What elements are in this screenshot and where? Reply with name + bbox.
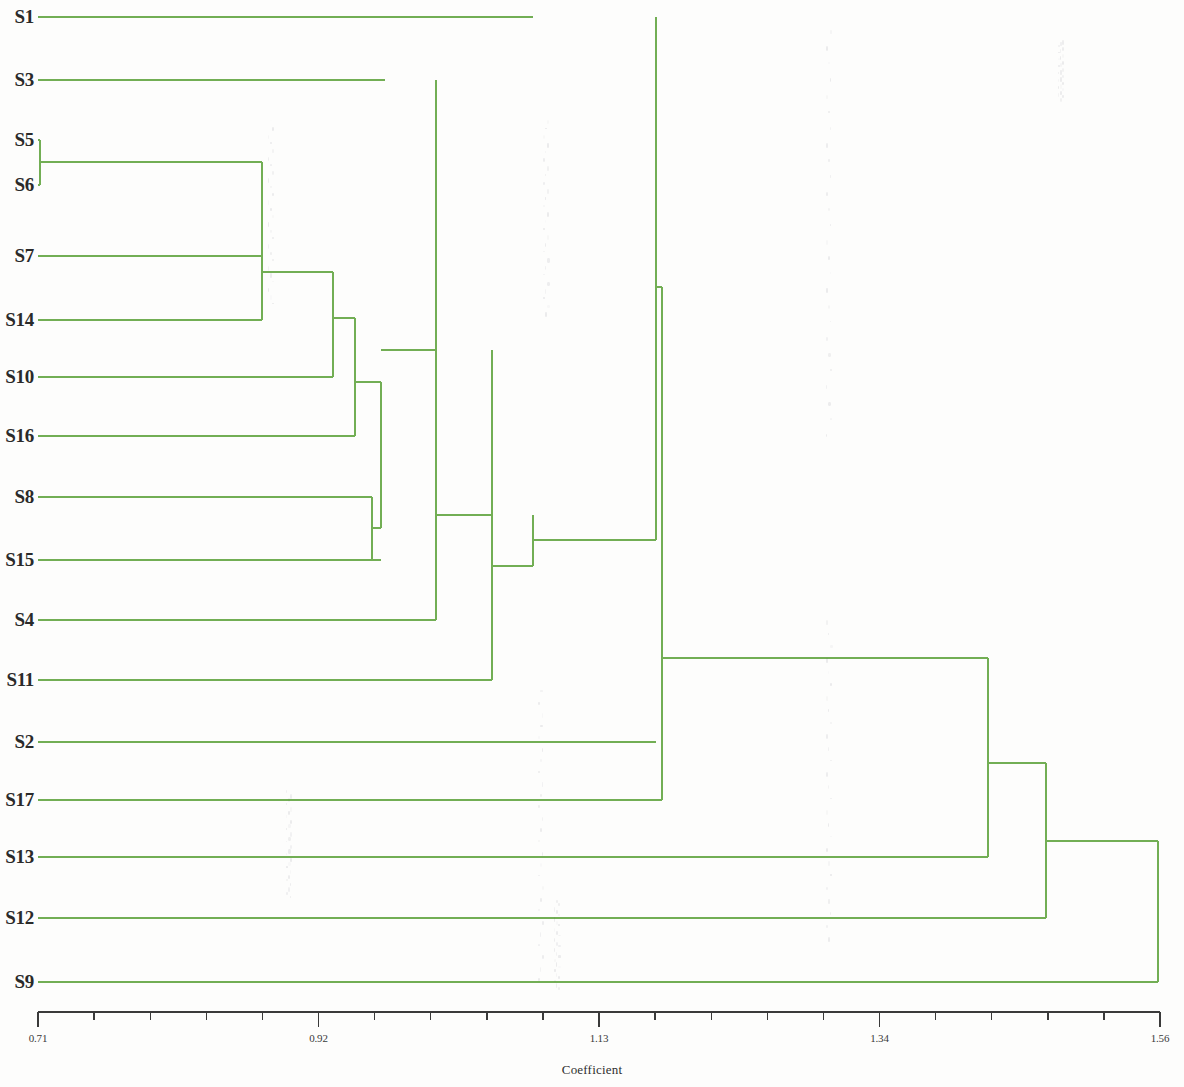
leaf-label-s1: S1 [0, 6, 34, 28]
leaf-label-s11: S11 [0, 669, 34, 691]
leaf-label-s5: S5 [0, 129, 34, 151]
leaf-label-s6: S6 [0, 174, 34, 196]
axis-title: Coefficient [0, 1062, 1184, 1078]
leaf-label-s12: S12 [0, 907, 34, 929]
leaf-label-s16: S16 [0, 425, 34, 447]
leaf-label-s15: S15 [0, 549, 34, 571]
axis-tick-label-4: 1.56 [1151, 1032, 1169, 1044]
coefficient-axis [38, 1012, 1160, 1027]
dendrogram-canvas [0, 0, 1184, 1087]
axis-tick-label-0: 0.71 [29, 1032, 47, 1044]
axis-tick-label-1: 0.92 [309, 1032, 327, 1044]
leaf-label-s2: S2 [0, 731, 34, 753]
leaf-label-s3: S3 [0, 69, 34, 91]
leaf-label-s7: S7 [0, 245, 34, 267]
leaf-label-s17: S17 [0, 789, 34, 811]
leaf-label-s8: S8 [0, 486, 34, 508]
leaf-label-s14: S14 [0, 309, 34, 331]
leaf-label-s4: S4 [0, 609, 34, 631]
leaf-label-s13: S13 [0, 846, 34, 868]
dendrogram-figure: S1S3S5S6S7S14S10S16S8S15S4S11S2S17S13S12… [0, 0, 1184, 1087]
axis-tick-label-2: 1.13 [590, 1032, 608, 1044]
leaf-label-s9: S9 [0, 971, 34, 993]
dendrogram-tree-lines [38, 17, 1158, 982]
axis-tick-label-3: 1.34 [870, 1032, 888, 1044]
leaf-label-s10: S10 [0, 366, 34, 388]
